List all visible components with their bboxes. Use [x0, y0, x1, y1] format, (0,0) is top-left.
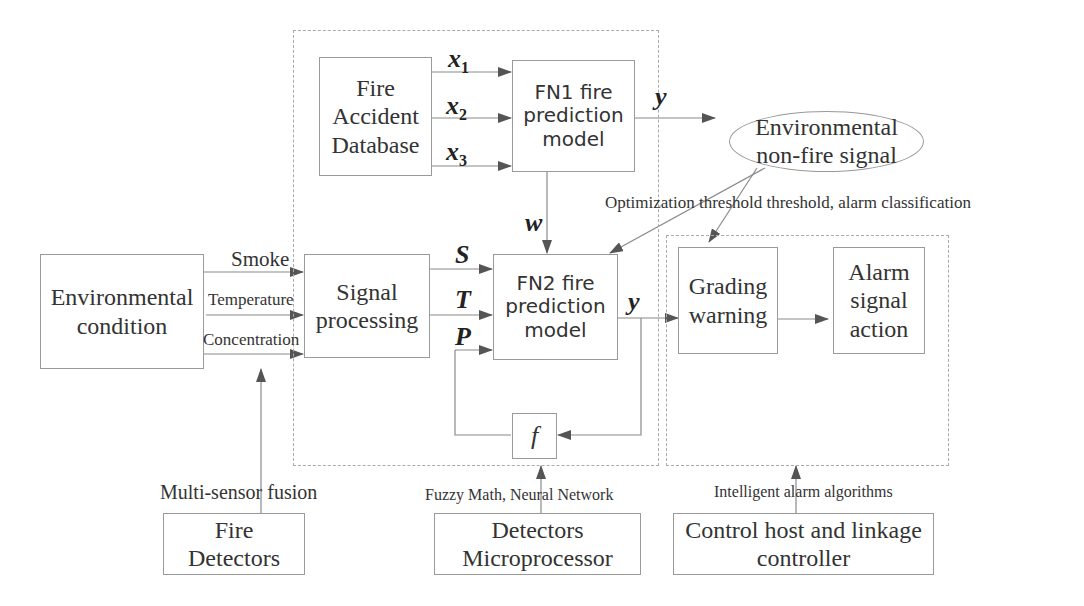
fire-detectors-label: Fire Detectors [188, 516, 280, 573]
fuzzy-math-label: Fuzzy Math, Neural Network [425, 486, 613, 504]
smoke-label: Smoke [231, 247, 289, 272]
intelligent-alarm-label: Intelligent alarm algorithms [714, 483, 893, 501]
detectors-microprocessor-label: Detectors Microprocessor [462, 516, 613, 573]
var-x3: x3 [446, 137, 467, 170]
f-block-label: f [531, 421, 538, 452]
signal-processing-label: Signal processing [316, 278, 419, 335]
var-y-mid: y [628, 287, 640, 317]
var-s: S [455, 240, 469, 270]
fire-accident-database-node: Fire Accident Database [319, 57, 432, 176]
var-p: P [455, 322, 471, 352]
f-block-node: f [512, 413, 557, 459]
signal-processing-node: Signal processing [304, 254, 430, 358]
alarm-signal-action-label: Alarm signal action [848, 258, 909, 343]
concentration-label: Concentration [203, 330, 299, 350]
grading-warning-node: Grading warning [678, 247, 778, 354]
multi-sensor-fusion-label: Multi-sensor fusion [160, 481, 317, 504]
detectors-microprocessor-node: Detectors Microprocessor [434, 513, 641, 575]
var-x2: x2 [446, 91, 467, 124]
fn2-model-label: FN2 fire prediction model [505, 272, 605, 343]
environmental-non-fire-signal-node: Environmental non-fire signal [729, 111, 924, 172]
var-x1: x1 [448, 44, 469, 77]
temperature-label: Temperature [208, 290, 294, 310]
control-host-label: Control host and linkage controller [685, 516, 922, 573]
fn2-model-node: FN2 fire prediction model [493, 254, 618, 360]
fn1-model-label: FN1 fire prediction model [523, 81, 623, 152]
environmental-condition-node: Environmental condition [40, 254, 204, 369]
var-t: T [455, 285, 471, 315]
environmental-non-fire-signal-label: Environmental non-fire signal [755, 114, 898, 169]
fire-detectors-node: Fire Detectors [163, 513, 305, 575]
control-host-node: Control host and linkage controller [673, 513, 934, 575]
var-y-top: y [655, 82, 667, 112]
environmental-condition-label: Environmental condition [51, 283, 194, 340]
var-w: w [525, 208, 542, 238]
optimization-label: Optimization threshold threshold, alarm … [605, 193, 971, 213]
fire-accident-database-label: Fire Accident Database [332, 74, 420, 159]
fn1-model-node: FN1 fire prediction model [512, 60, 635, 172]
alarm-signal-action-node: Alarm signal action [833, 247, 925, 354]
grading-warning-label: Grading warning [689, 272, 768, 329]
